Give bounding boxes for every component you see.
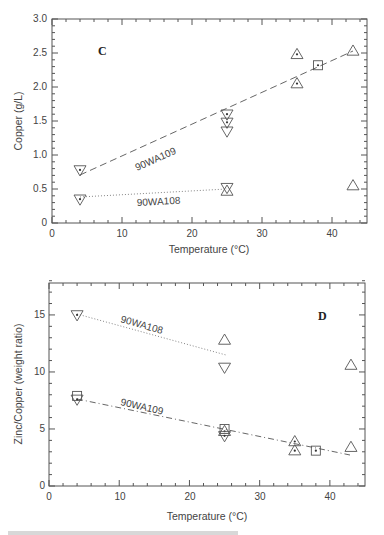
data-point-dot — [226, 113, 228, 115]
y-tick-label: 10 — [34, 366, 46, 377]
data-point-triangle-down — [219, 363, 231, 373]
data-point-dot — [294, 450, 296, 452]
y-tick-label: 2.0 — [33, 81, 47, 92]
x-tick-label: 0 — [49, 228, 55, 239]
data-point-dot — [296, 83, 298, 85]
data-point-triangle-up — [219, 334, 231, 344]
data-point-triangle-up — [347, 45, 359, 55]
x-tick-label: 40 — [326, 228, 338, 239]
series-label-90wa108: 90WA108 — [137, 195, 181, 208]
data-point-dot — [223, 435, 225, 437]
series-label-90wa109: 90WA109 — [133, 145, 178, 173]
data-point-triangle-up — [345, 441, 357, 451]
x-axis-label: Temperature (°C) — [167, 510, 248, 522]
x-tick-label: 40 — [324, 491, 336, 502]
y-tick-label: 5 — [39, 423, 45, 434]
x-tick-label: 10 — [114, 491, 126, 502]
series-label-90wa109: 90WA109 — [120, 396, 165, 417]
data-point-dot — [79, 169, 81, 171]
y-tick-label: 0 — [41, 217, 47, 228]
data-point-dot — [226, 121, 228, 123]
y-tick-label: 0 — [39, 480, 45, 491]
x-tick-label: 0 — [46, 491, 52, 502]
x-tick-label: 30 — [254, 491, 266, 502]
data-point-dot — [294, 440, 296, 442]
data-point-dot — [79, 198, 81, 200]
y-axis-label: Zinc/Copper (weight ratio) — [12, 324, 24, 445]
data-point-triangle-up — [347, 180, 359, 190]
chart-panel-d: 0 10 20 30 40 0 5 10 15 Temperature (°C)… — [12, 281, 365, 522]
x-axis-label: Temperature (°C) — [169, 243, 250, 255]
data-point-dot — [76, 398, 78, 400]
series-label-90wa108: 90WA108 — [119, 313, 164, 336]
data-markers-d — [71, 311, 357, 455]
x-tick-label: 20 — [186, 228, 198, 239]
data-point-dot — [315, 450, 317, 452]
x-tick-label: 30 — [256, 228, 268, 239]
caption-remnant — [8, 531, 238, 535]
panel-letter-c: C — [98, 44, 107, 58]
data-point-dot — [76, 314, 78, 316]
y-tick-label: 1.5 — [33, 115, 47, 126]
y-axis-label: Copper (g/L) — [12, 92, 24, 151]
fit-line-90wa108 — [77, 314, 226, 355]
data-point-triangle-up — [345, 359, 357, 369]
y-tick-label: 0.5 — [33, 183, 47, 194]
data-point-dot — [317, 64, 319, 66]
y-tick-label: 15 — [34, 309, 46, 320]
y-tick-label: 3.0 — [33, 13, 47, 24]
x-tick-label: 20 — [184, 491, 196, 502]
panel-letter-d: D — [318, 309, 327, 323]
x-tick-label: 10 — [116, 228, 128, 239]
y-tick-label: 1.0 — [33, 149, 47, 160]
fit-line-90wa109 — [80, 51, 353, 175]
figure: 0 10 20 30 40 0 0.5 1.0 1.5 2.0 2.5 3.0 … — [0, 0, 384, 535]
fit-line-90wa109 — [77, 399, 350, 455]
y-tick-label: 2.5 — [33, 47, 47, 58]
data-markers-c — [74, 45, 359, 205]
chart-panel-c: 0 10 20 30 40 0 0.5 1.0 1.5 2.0 2.5 3.0 … — [12, 13, 367, 255]
data-point-dot — [296, 53, 298, 55]
